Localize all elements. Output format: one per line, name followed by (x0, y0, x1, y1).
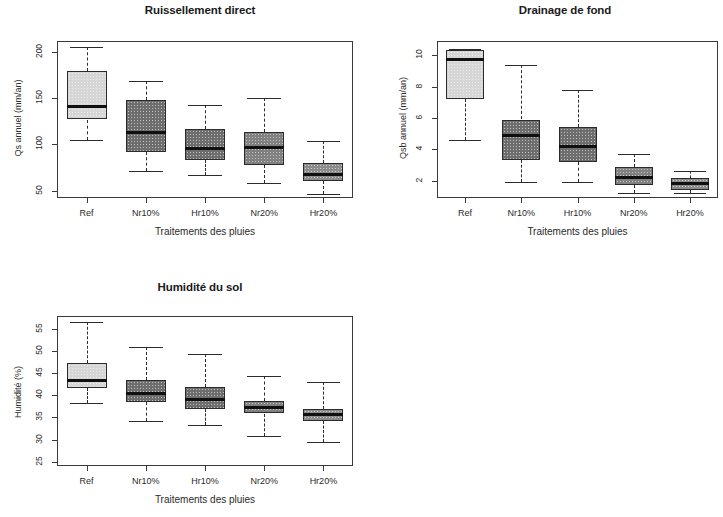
boxplot-median (502, 134, 540, 137)
y-axis-tick (432, 181, 437, 182)
chart-panel-drainage-de-fond: Drainage de fond Qsb annuel (mm/an) Trai… (395, 0, 723, 260)
boxplot-cap-lower (674, 193, 706, 194)
x-axis-title: Traitements des pluies (57, 226, 353, 237)
boxplot-cap-lower (129, 421, 163, 422)
boxplot-whisker-lower (264, 165, 265, 183)
boxplot-whisker-upper (146, 81, 147, 100)
x-axis-tick (323, 466, 324, 471)
boxplot-whisker-upper (87, 47, 88, 70)
y-axis-tick-label: 4 (414, 135, 424, 161)
x-axis-tick (205, 198, 206, 203)
boxplot-cap-lower (618, 193, 650, 194)
boxplot-whisker-lower (146, 402, 147, 421)
y-axis-tick (52, 144, 57, 145)
boxplot-median (244, 406, 284, 409)
y-axis-tick (52, 52, 57, 53)
x-axis-tick (264, 466, 265, 471)
boxplot-box-hr20pct (303, 163, 343, 181)
y-axis-title: Humidité (%) (13, 337, 23, 447)
boxplot-whisker-lower (323, 421, 324, 443)
x-axis-title: Traitements des pluies (57, 494, 353, 505)
boxplot-median (67, 379, 107, 382)
boxplot-whisker-lower (205, 160, 206, 175)
boxplot-whisker-lower (465, 99, 466, 140)
x-axis-tick-label-ref: Ref (435, 208, 495, 218)
boxplot-whisker-upper (323, 382, 324, 409)
y-axis-title: Qs annuel (mm/an) (13, 58, 23, 178)
x-axis-tick-label-nr10pct: Nr10% (116, 208, 176, 218)
y-axis-tick (432, 87, 437, 88)
boxplot-cap-upper (188, 105, 222, 106)
y-axis-tick (52, 462, 57, 463)
boxplot-box-nr10pct (502, 120, 540, 161)
boxplot-whisker-upper (578, 90, 579, 128)
chart-title: Ruissellement direct (0, 4, 400, 16)
boxplot-median (126, 131, 166, 134)
boxplot-box-nr10pct (126, 100, 166, 152)
y-axis-tick (52, 373, 57, 374)
x-axis-tick (323, 198, 324, 203)
y-axis-tick (52, 191, 57, 192)
boxplot-cap-upper (70, 47, 104, 48)
boxplot-median (559, 145, 597, 148)
chart-title: Humidité du sol (0, 281, 400, 293)
boxplot-cap-upper (129, 81, 163, 82)
boxplot-cap-lower (307, 442, 341, 443)
x-axis-tick-label-hr10pct: Hr10% (175, 476, 235, 486)
boxplot-cap-upper (618, 154, 650, 155)
boxplot-median (615, 176, 653, 179)
boxplot-cap-upper (188, 354, 222, 355)
boxplot-median (671, 182, 709, 185)
boxplot-cap-lower (247, 436, 281, 437)
boxplot-cap-lower (505, 182, 537, 183)
boxplot-whisker-lower (264, 414, 265, 437)
y-axis-tick-label: 25 (34, 448, 44, 474)
boxplot-whisker-upper (87, 322, 88, 363)
boxplot-median (244, 146, 284, 149)
x-axis-tick (87, 466, 88, 471)
y-axis-tick (52, 417, 57, 418)
x-axis-tick-label-nr10pct: Nr10% (116, 476, 176, 486)
boxplot-median (303, 173, 343, 176)
y-axis-tick-label: 150 (34, 84, 44, 110)
x-axis-tick-label-nr20pct: Nr20% (604, 208, 664, 218)
y-axis-tick (52, 440, 57, 441)
x-axis-tick-label-hr20pct: Hr20% (660, 208, 720, 218)
boxplot-median (303, 413, 343, 416)
boxplot-whisker-upper (521, 65, 522, 120)
y-axis-tick (432, 118, 437, 119)
y-axis-tick (52, 329, 57, 330)
boxplot-median (446, 58, 484, 61)
boxplot-cap-upper (247, 376, 281, 377)
box-texture (304, 164, 342, 180)
boxplot-whisker-lower (87, 120, 88, 140)
boxplot-cap-lower (562, 182, 594, 183)
x-axis-tick-label-hr10pct: Hr10% (175, 208, 235, 218)
boxplot-box-hr10pct (185, 129, 225, 160)
boxplot-median (185, 398, 225, 401)
boxplot-whisker-upper (264, 376, 265, 401)
x-axis-tick (690, 198, 691, 203)
boxplot-cap-upper (307, 141, 341, 142)
y-axis-tick (52, 98, 57, 99)
boxplot-cap-lower (247, 183, 281, 184)
boxplot-cap-lower (449, 140, 481, 141)
x-axis-tick (146, 198, 147, 203)
boxplot-whisker-upper (205, 354, 206, 387)
boxplot-cap-lower (188, 175, 222, 176)
boxplot-box-ref (67, 363, 107, 389)
x-axis-tick (521, 198, 522, 203)
boxplot-cap-upper (562, 90, 594, 91)
boxplot-cap-upper (247, 98, 281, 99)
boxplot-whisker-lower (323, 181, 324, 194)
x-axis-tick (634, 198, 635, 203)
x-axis-tick (146, 466, 147, 471)
boxplot-box-ref (67, 71, 107, 120)
boxplot-median (185, 147, 225, 150)
boxplot-median (67, 105, 107, 108)
boxplot-whisker-lower (146, 152, 147, 171)
x-axis-tick-label-ref: Ref (57, 208, 117, 218)
boxplot-cap-lower (129, 171, 163, 172)
y-axis-title: Qsb annuel (mm/an) (398, 58, 408, 178)
boxplot-cap-upper (70, 322, 104, 323)
